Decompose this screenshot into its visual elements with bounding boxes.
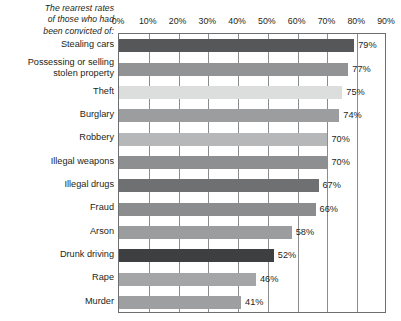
x-tick-label-50: 50% bbox=[258, 16, 276, 27]
category-label: Burglary bbox=[0, 109, 114, 119]
plot-area: 79%77%75%74%70%70%67%66%58%52%46%41% bbox=[118, 33, 386, 313]
bar-value-label: 79% bbox=[354, 38, 376, 52]
bar[interactable] bbox=[119, 226, 292, 239]
bar-value-label: 75% bbox=[342, 85, 364, 99]
bar-value-label: 58% bbox=[292, 225, 314, 239]
category-label-line: Robbery bbox=[0, 132, 114, 142]
x-tick-label-70: 70% bbox=[318, 16, 336, 27]
category-label: Rape bbox=[0, 272, 114, 282]
caption-line-2: of those who had bbox=[4, 14, 114, 25]
category-label-line: Possessing or selling bbox=[0, 57, 114, 67]
bar[interactable] bbox=[119, 273, 256, 286]
bar-row[interactable]: 70% bbox=[119, 133, 385, 146]
category-label: Robbery bbox=[0, 132, 114, 142]
bar-row[interactable]: 77% bbox=[119, 63, 385, 76]
category-label-line: Arson bbox=[0, 226, 114, 236]
bar-value-label: 52% bbox=[274, 248, 296, 262]
bar-value-label: 46% bbox=[256, 272, 278, 286]
bar-row[interactable]: 41% bbox=[119, 296, 385, 309]
bar[interactable] bbox=[119, 156, 327, 169]
category-label: Theft bbox=[0, 86, 114, 96]
category-label-line: Stealing cars bbox=[0, 39, 114, 49]
category-label-line: Drunk driving bbox=[0, 249, 114, 259]
bar[interactable] bbox=[119, 39, 354, 52]
chart-caption: The rearrest rates of those who had been… bbox=[4, 3, 114, 37]
bar[interactable] bbox=[119, 63, 348, 76]
bar-value-label: 70% bbox=[327, 155, 349, 169]
category-label: Fraud bbox=[0, 202, 114, 212]
category-label: Illegal drugs bbox=[0, 179, 114, 189]
bar[interactable] bbox=[119, 179, 319, 192]
bar-value-label: 74% bbox=[339, 108, 361, 122]
x-tick-label-30: 30% bbox=[199, 16, 217, 27]
category-label: Illegal weapons bbox=[0, 156, 114, 166]
category-label-line: stolen property bbox=[0, 68, 114, 78]
bar[interactable] bbox=[119, 133, 327, 146]
category-axis-labels: Stealing carsPossessing or sellingstolen… bbox=[0, 33, 114, 313]
category-label-line: Rape bbox=[0, 272, 114, 282]
category-label-line: Burglary bbox=[0, 109, 114, 119]
bar[interactable] bbox=[119, 249, 274, 262]
bar-value-label: 67% bbox=[319, 178, 341, 192]
bar[interactable] bbox=[119, 203, 316, 216]
category-label-line: Murder bbox=[0, 296, 114, 306]
x-tick-label-60: 60% bbox=[288, 16, 306, 27]
x-tick-label-0: 0% bbox=[112, 16, 125, 27]
category-label: Drunk driving bbox=[0, 249, 114, 259]
bar-value-label: 70% bbox=[327, 132, 349, 146]
x-tick-label-10: 10% bbox=[139, 16, 157, 27]
bar-row[interactable]: 75% bbox=[119, 86, 385, 99]
bar-row[interactable]: 46% bbox=[119, 273, 385, 286]
bar-value-label: 77% bbox=[348, 62, 370, 76]
caption-line-1: The rearrest rates bbox=[4, 3, 114, 14]
category-label: Murder bbox=[0, 296, 114, 306]
bar[interactable] bbox=[119, 296, 241, 309]
category-label-line: Fraud bbox=[0, 202, 114, 212]
bar-value-label: 41% bbox=[241, 295, 263, 309]
category-label-line: Illegal weapons bbox=[0, 156, 114, 166]
x-tick-label-80: 80% bbox=[347, 16, 365, 27]
bar-row[interactable]: 66% bbox=[119, 203, 385, 216]
bar-row[interactable]: 79% bbox=[119, 39, 385, 52]
category-label: Stealing cars bbox=[0, 39, 114, 49]
category-label-line: Theft bbox=[0, 86, 114, 96]
bar-rows: 79%77%75%74%70%70%67%66%58%52%46%41% bbox=[119, 34, 385, 312]
bar-row[interactable]: 70% bbox=[119, 156, 385, 169]
x-axis-tick-labels: 0%10%20%30%40%50%60%70%80%90% bbox=[118, 16, 386, 30]
x-tick-label-40: 40% bbox=[228, 16, 246, 27]
bar-row[interactable]: 67% bbox=[119, 179, 385, 192]
bar-row[interactable]: 52% bbox=[119, 249, 385, 262]
bar-value-label: 66% bbox=[316, 202, 338, 216]
x-tick-label-90: 90% bbox=[377, 16, 395, 27]
bar[interactable] bbox=[119, 86, 342, 99]
category-label: Possessing or sellingstolen property bbox=[0, 57, 114, 78]
bar-row[interactable]: 74% bbox=[119, 109, 385, 122]
bar-row[interactable]: 58% bbox=[119, 226, 385, 239]
x-tick-label-20: 20% bbox=[169, 16, 187, 27]
bar[interactable] bbox=[119, 109, 339, 122]
category-label: Arson bbox=[0, 226, 114, 236]
category-label-line: Illegal drugs bbox=[0, 179, 114, 189]
rearrest-rates-bar-chart: The rearrest rates of those who had been… bbox=[0, 0, 401, 321]
